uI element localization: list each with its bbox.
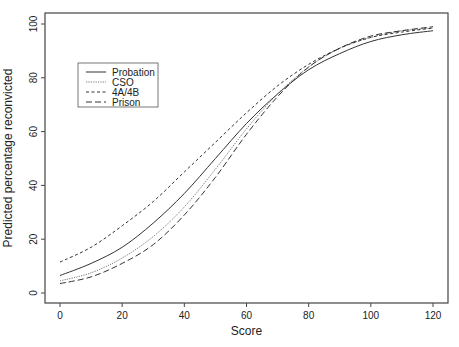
x-tick-label: 20 — [117, 310, 129, 321]
y-tick-label: 80 — [28, 72, 39, 84]
x-tick-label: 40 — [179, 310, 191, 321]
y-tick-label: 60 — [28, 126, 39, 138]
x-tick-label: 100 — [362, 310, 379, 321]
legend: ProbationCSO4A/4BPrison — [78, 63, 158, 108]
x-tick-label: 60 — [241, 310, 253, 321]
x-tick-label: 0 — [57, 310, 63, 321]
y-tick-label: 20 — [28, 233, 39, 245]
y-tick-label: 100 — [28, 15, 39, 32]
legend-label: Prison — [112, 97, 140, 108]
x-tick-label: 120 — [425, 310, 442, 321]
x-axis-label: Score — [231, 324, 263, 338]
y-axis-ticks: 020406080100 — [28, 15, 45, 296]
chart: 020406080100120 020406080100 Score Predi… — [0, 0, 459, 347]
x-tick-label: 80 — [303, 310, 315, 321]
x-axis-ticks: 020406080100120 — [57, 303, 442, 321]
y-tick-label: 0 — [28, 290, 39, 296]
y-axis-label: Predicted percentage reconvicted — [1, 69, 15, 248]
plot-frame — [45, 13, 448, 303]
y-tick-label: 40 — [28, 179, 39, 191]
